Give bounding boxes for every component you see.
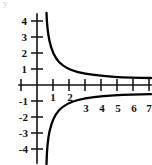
y-tick-label-neg2: -2 bbox=[19, 111, 29, 123]
x-tick-label-1: 1 bbox=[50, 91, 56, 103]
curve-upper-branch bbox=[47, 13, 152, 78]
x-tick-label-7: 7 bbox=[146, 102, 152, 114]
function-plot: 4 3 2 1 -1 -2 -3 -4 1 2 3 4 5 6 7 bbox=[0, 0, 152, 165]
y-tick-label-neg4: -4 bbox=[19, 143, 29, 155]
y-tick-label-neg1: -1 bbox=[19, 95, 28, 107]
y-tick-label-4: 4 bbox=[22, 15, 28, 27]
y-tick-label-3: 3 bbox=[22, 31, 28, 43]
x-tick-label-4: 4 bbox=[99, 102, 105, 114]
y-tick-label-2: 2 bbox=[22, 47, 28, 59]
y-tick-label-neg3: -3 bbox=[19, 127, 29, 139]
graph-figure: y 4 3 2 1 -1 -2 -3 -4 1 2 bbox=[0, 0, 152, 165]
x-tick-label-6: 6 bbox=[131, 102, 137, 114]
y-tick-label-1: 1 bbox=[22, 63, 28, 75]
x-tick-label-3: 3 bbox=[83, 102, 89, 114]
x-tick-label-5: 5 bbox=[115, 102, 121, 114]
